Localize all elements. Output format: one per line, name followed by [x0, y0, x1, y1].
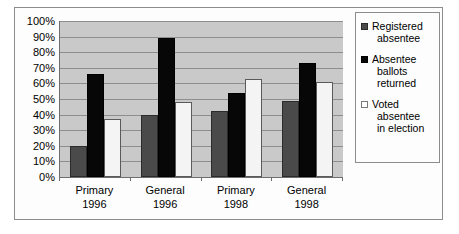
- legend-label-line: ballots: [372, 65, 416, 77]
- bar[interactable]: [245, 79, 262, 177]
- bar[interactable]: [141, 115, 158, 177]
- bar[interactable]: [104, 119, 121, 177]
- legend-label-line: absentee: [372, 110, 424, 122]
- x-axis-label-line: General: [130, 183, 201, 197]
- bar[interactable]: [158, 38, 175, 177]
- y-axis-tick-label: 100%: [19, 16, 55, 27]
- x-axis-label-line: General: [271, 183, 342, 197]
- x-axis-category-label: General1998: [271, 183, 342, 211]
- legend-item[interactable]: Registeredabsentee: [361, 20, 435, 44]
- x-axis-ticks: [59, 177, 342, 182]
- chart-screenshot: 100%90%80%70%60%50%40%30%20%10%0% Primar…: [0, 0, 459, 234]
- y-axis-tick-label: 40%: [19, 109, 55, 120]
- x-axis-category-label: Primary1996: [59, 183, 130, 211]
- legend-label-line: absentee: [372, 32, 423, 44]
- y-axis-tick-label: 70%: [19, 62, 55, 73]
- y-axis-tick-label: 20%: [19, 140, 55, 151]
- x-axis-category-label: Primary1998: [201, 183, 272, 211]
- legend-swatch-icon: [361, 56, 368, 63]
- legend-label-line: Registered: [372, 20, 423, 32]
- legend-item[interactable]: Absenteeballotsreturned: [361, 53, 435, 89]
- legend-swatch-icon: [361, 101, 368, 108]
- legend-label-line: returned: [372, 77, 416, 89]
- bar-group: [272, 21, 343, 177]
- plot-wrapper: 100%90%80%70%60%50%40%30%20%10%0% Primar…: [19, 12, 349, 215]
- bar-group: [131, 21, 202, 177]
- x-axis-label-line: Primary: [59, 183, 130, 197]
- bar-group: [202, 21, 273, 177]
- chart-frame: 100%90%80%70%60%50%40%30%20%10%0% Primar…: [14, 7, 443, 220]
- bar[interactable]: [299, 63, 316, 177]
- legend-label-line: Voted: [372, 98, 424, 110]
- legend-label: Registeredabsentee: [372, 20, 423, 44]
- bar-group: [60, 21, 131, 177]
- legend-label-line: Absentee: [372, 53, 416, 65]
- y-axis-tick-label: 80%: [19, 47, 55, 58]
- bar[interactable]: [175, 102, 192, 177]
- y-axis-tick-label: 10%: [19, 156, 55, 167]
- x-axis-label-line: 1998: [271, 197, 342, 211]
- y-axis-tick-labels: 100%90%80%70%60%50%40%30%20%10%0%: [19, 21, 55, 177]
- bar[interactable]: [316, 82, 333, 177]
- x-axis-category-label: General1996: [130, 183, 201, 211]
- legend-label-line: in election: [372, 122, 424, 134]
- legend-label: Absenteeballotsreturned: [372, 53, 416, 89]
- x-axis-label-line: 1998: [201, 197, 272, 211]
- legend-label: Votedabsenteein election: [372, 98, 424, 134]
- y-axis-tick-label: 0%: [19, 172, 55, 183]
- plot-area: [59, 21, 343, 178]
- y-axis-tick-label: 90%: [19, 31, 55, 42]
- legend-swatch-icon: [361, 23, 368, 30]
- bar-groups: [60, 21, 343, 177]
- bar[interactable]: [70, 146, 87, 177]
- x-axis-label-line: 1996: [59, 197, 130, 211]
- x-axis-label-line: Primary: [201, 183, 272, 197]
- x-axis-tick: [201, 177, 202, 181]
- x-axis-tick: [130, 177, 131, 181]
- y-axis-tick-label: 50%: [19, 94, 55, 105]
- bar[interactable]: [282, 101, 299, 177]
- y-axis-tick-label: 60%: [19, 78, 55, 89]
- x-axis-tick: [271, 177, 272, 181]
- x-axis-label-line: 1996: [130, 197, 201, 211]
- bar[interactable]: [228, 93, 245, 177]
- x-axis-tick: [59, 177, 60, 181]
- bar[interactable]: [211, 111, 228, 177]
- x-axis-category-labels: Primary1996General1996Primary1998General…: [59, 183, 342, 211]
- chart-legend: RegisteredabsenteeAbsenteeballotsreturne…: [355, 12, 440, 163]
- x-axis-tick: [342, 177, 343, 181]
- legend-item[interactable]: Votedabsenteein election: [361, 98, 435, 134]
- y-axis-tick-label: 30%: [19, 125, 55, 136]
- bar[interactable]: [87, 74, 104, 177]
